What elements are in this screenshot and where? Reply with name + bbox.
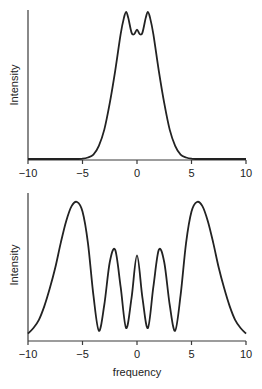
top-tick-label: 10 xyxy=(240,167,252,179)
bottom-tick-label: −10 xyxy=(19,348,38,360)
bottom-y-axis-label: Intensity xyxy=(8,244,20,285)
top-tick-label: −10 xyxy=(19,167,38,179)
bottom-tick-label: 0 xyxy=(134,348,140,360)
bottom-tick-label: −5 xyxy=(76,348,89,360)
bottom-tick-label: 10 xyxy=(240,348,252,360)
top-tick-label: −5 xyxy=(76,167,89,179)
top-x-ticks xyxy=(28,160,246,164)
top-tick-label: 5 xyxy=(188,167,194,179)
bottom-plot: −10 −5 0 5 10 Intensity frequency xyxy=(8,193,252,378)
top-plot: −10 −5 0 5 10 Intensity xyxy=(8,10,252,179)
bottom-spectrum-curve xyxy=(28,202,246,334)
bottom-tick-label: 5 xyxy=(188,348,194,360)
top-spectrum-curve xyxy=(28,12,246,159)
top-tick-label: 0 xyxy=(134,167,140,179)
bottom-x-axis-label: frequency xyxy=(113,366,162,378)
figure: −10 −5 0 5 10 Intensity −10 −5 0 5 10 In… xyxy=(0,0,262,389)
top-y-axis-label: Intensity xyxy=(8,64,20,105)
